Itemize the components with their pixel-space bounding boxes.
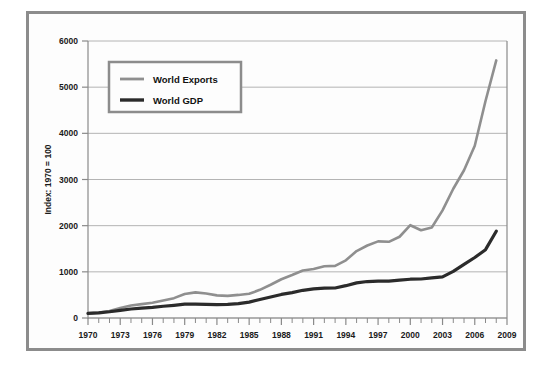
x-tick-label: 1973	[111, 330, 130, 340]
x-tick-label: 2000	[401, 330, 420, 340]
y-tick-label: 5000	[59, 82, 78, 92]
legend-label-world-exports: World Exports	[153, 74, 218, 85]
chart-outer-frame: 0100020003000400050006000 19701973197619…	[26, 11, 526, 351]
x-tick-label: 1991	[304, 330, 323, 340]
y-tick-label: 1000	[59, 267, 78, 277]
x-tick-label: 1994	[336, 330, 355, 340]
x-tick-label: 1982	[207, 330, 226, 340]
y-tick-label: 0	[73, 313, 78, 323]
y-tick-label: 6000	[59, 36, 78, 46]
chart-figure: 0100020003000400050006000 19701973197619…	[0, 0, 552, 366]
line-chart: 0100020003000400050006000 19701973197619…	[29, 14, 523, 348]
x-tick-label: 2009	[498, 330, 517, 340]
x-tick-label: 1976	[143, 330, 162, 340]
y-axis-title-text: Index: 1970 = 100	[43, 144, 53, 214]
x-tick-label: 1985	[240, 330, 259, 340]
chart-legend: World ExportsWorld GDP	[109, 62, 241, 112]
legend-label-world-gdp: World GDP	[153, 95, 204, 106]
y-tick-label: 3000	[59, 175, 78, 185]
y-tick-label: 2000	[59, 221, 78, 231]
y-axis-title: Index: 1970 = 100	[43, 144, 53, 214]
y-tick-label: 4000	[59, 128, 78, 138]
x-tick-label: 1988	[272, 330, 291, 340]
x-tick-label: 2003	[433, 330, 452, 340]
x-tick-label: 1997	[369, 330, 388, 340]
x-tick-label: 1979	[175, 330, 194, 340]
plot-background	[29, 14, 523, 348]
x-tick-label: 1970	[79, 330, 98, 340]
x-tick-label: 2006	[465, 330, 484, 340]
